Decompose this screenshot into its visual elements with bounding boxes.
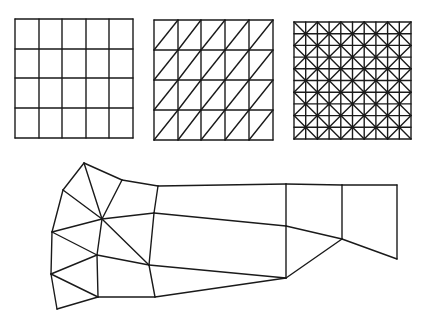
cell-diagonal <box>388 57 400 69</box>
mesh-node <box>304 32 307 35</box>
cell-diagonal <box>306 57 318 69</box>
mesh-node <box>304 56 307 59</box>
cell-diagonal <box>294 34 306 46</box>
mesh-edge <box>97 255 98 297</box>
cell-diagonal <box>249 50 273 80</box>
cell-diagonal <box>294 57 306 69</box>
cell-diagonal <box>364 57 376 69</box>
cell-diagonal <box>388 81 400 93</box>
cell-diagonal <box>341 127 353 139</box>
cell-diagonal <box>364 22 376 34</box>
cell-diagonal <box>353 69 365 81</box>
cell-diagonal <box>317 127 329 139</box>
mesh-edge <box>63 163 84 190</box>
cell-diagonal <box>376 57 388 69</box>
cell-diagonal <box>294 116 306 128</box>
cell-diagonal <box>178 110 201 140</box>
cell-diagonal <box>399 127 411 139</box>
cell-diagonal <box>329 104 341 116</box>
cell-diagonal <box>249 20 273 50</box>
cell-diagonal <box>353 127 365 139</box>
mesh-node <box>316 91 319 94</box>
cell-diagonal <box>201 50 225 80</box>
mesh-node <box>328 79 331 82</box>
mesh-edge <box>149 213 154 265</box>
mesh-edge <box>84 163 122 180</box>
mesh-node <box>304 102 307 105</box>
cell-diagonal <box>364 127 376 139</box>
mesh-node <box>363 114 366 117</box>
cell-diagonal <box>341 116 353 128</box>
cell-diagonal <box>376 92 388 104</box>
cell-diagonal <box>364 45 376 57</box>
cell-diagonal <box>249 80 273 110</box>
mesh-edge <box>102 180 122 219</box>
cell-diagonal <box>329 45 341 57</box>
cell-diagonal <box>329 57 341 69</box>
mesh-node <box>316 67 319 70</box>
cell-diagonal <box>306 81 318 93</box>
cell-diagonal <box>388 92 400 104</box>
cell-diagonal <box>225 80 249 110</box>
mesh-node <box>398 32 401 35</box>
cell-diagonal <box>376 45 388 57</box>
cell-diagonal <box>353 81 365 93</box>
cell-diagonal <box>317 57 329 69</box>
cell-diagonal <box>306 116 318 128</box>
mesh-edge <box>57 297 98 309</box>
cell-diagonal <box>306 22 318 34</box>
cell-diagonal <box>353 104 365 116</box>
mesh-node <box>363 91 366 94</box>
mesh-node <box>328 102 331 105</box>
mesh-edge <box>52 232 97 255</box>
cell-diagonal <box>376 34 388 46</box>
mesh-edge <box>97 219 102 255</box>
cell-diagonal <box>399 81 411 93</box>
cell-diagonal <box>317 34 329 46</box>
cell-diagonal <box>178 50 201 80</box>
cell-diagonal <box>376 127 388 139</box>
cell-diagonal <box>353 116 365 128</box>
mesh-node <box>339 91 342 94</box>
cell-diagonal <box>154 110 178 140</box>
cell-diagonal <box>341 92 353 104</box>
cell-diagonal <box>329 127 341 139</box>
cell-diagonal <box>399 116 411 128</box>
cell-diagonal <box>364 81 376 93</box>
mesh-node <box>339 67 342 70</box>
cell-diagonal <box>329 22 341 34</box>
mesh-node <box>374 79 377 82</box>
cell-diagonal <box>341 34 353 46</box>
cell-diagonal <box>317 116 329 128</box>
mesh-node <box>351 126 354 129</box>
mesh-node <box>328 32 331 35</box>
cell-diagonal <box>364 92 376 104</box>
cell-diagonal <box>353 34 365 46</box>
cell-diagonal <box>353 57 365 69</box>
mesh-node <box>351 79 354 82</box>
triangle-grid-mesh <box>154 20 273 140</box>
mesh-edge <box>286 184 342 185</box>
cell-diagonal <box>329 69 341 81</box>
cell-diagonal <box>364 116 376 128</box>
cell-diagonal <box>201 20 225 50</box>
cell-diagonal <box>225 110 249 140</box>
mesh-node <box>351 56 354 59</box>
cell-diagonal <box>376 104 388 116</box>
mesh-node <box>351 32 354 35</box>
mesh-edge <box>51 274 57 309</box>
mesh-edge <box>51 255 97 274</box>
cell-diagonal <box>178 80 201 110</box>
cell-diagonal <box>306 104 318 116</box>
cell-diagonal <box>294 127 306 139</box>
mesh-node <box>398 79 401 82</box>
cell-diagonal <box>294 69 306 81</box>
cell-diagonal <box>399 57 411 69</box>
mesh-edge <box>149 265 286 278</box>
mesh-node <box>351 102 354 105</box>
cell-diagonal <box>364 69 376 81</box>
mesh-edge <box>149 265 155 297</box>
mesh-edge <box>122 180 158 186</box>
cell-diagonal <box>154 50 178 80</box>
cell-diagonal <box>294 45 306 57</box>
